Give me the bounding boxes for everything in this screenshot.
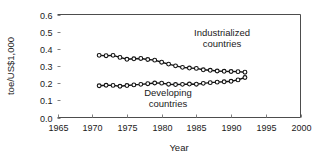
data-point-marker: [167, 62, 171, 66]
data-point-marker: [111, 84, 115, 88]
x-tick-label: 1995: [256, 123, 276, 133]
data-point-marker: [167, 82, 171, 86]
x-tick-label: 2000: [291, 123, 311, 133]
data-point-marker: [118, 56, 122, 60]
data-point-marker: [132, 83, 136, 87]
x-tick-label: 1980: [152, 123, 172, 133]
y-tick-label: 0.4: [40, 45, 53, 55]
data-point-marker: [236, 70, 240, 74]
chart-container: 0.00.10.20.30.40.50.6 196519701975198019…: [0, 0, 322, 157]
line-chart: 0.00.10.20.30.40.50.6 196519701975198019…: [0, 0, 322, 157]
annotation-developing-line1: Developing: [144, 87, 192, 98]
data-point-marker: [181, 65, 185, 69]
data-point-marker: [194, 82, 198, 86]
data-point-marker: [153, 81, 157, 85]
data-point-marker: [104, 54, 108, 58]
data-point-marker: [125, 57, 129, 61]
data-point-marker: [111, 53, 115, 57]
x-tick-label: 1975: [117, 123, 137, 133]
data-point-marker: [146, 58, 150, 62]
data-point-marker: [215, 69, 219, 73]
data-point-marker: [194, 67, 198, 71]
x-tick-label: 1990: [221, 123, 241, 133]
data-point-marker: [174, 64, 178, 68]
data-point-marker: [97, 84, 101, 88]
data-point-marker: [139, 82, 143, 86]
data-point-marker: [215, 80, 219, 84]
data-point-marker: [243, 70, 247, 74]
y-tick-label: 0.3: [40, 62, 53, 72]
data-point-marker: [160, 60, 164, 64]
x-tick-label: 1965: [48, 123, 68, 133]
annotation-industrialized-line1: Industrialized: [194, 27, 250, 38]
data-point-marker: [236, 78, 240, 82]
data-point-marker: [125, 84, 129, 88]
data-point-marker: [243, 76, 247, 80]
data-point-marker: [222, 69, 226, 73]
y-tick-label: 0.6: [40, 11, 53, 21]
data-point-marker: [160, 81, 164, 85]
x-axis-title: Year: [169, 142, 188, 153]
data-point-marker: [201, 68, 205, 72]
annotation-developing-line2: countries: [149, 98, 188, 109]
data-point-marker: [104, 83, 108, 87]
data-point-marker: [181, 82, 185, 86]
data-point-marker: [146, 82, 150, 86]
data-point-marker: [118, 84, 122, 88]
data-point-marker: [229, 70, 233, 74]
data-point-marker: [208, 81, 212, 85]
data-point-marker: [208, 68, 212, 72]
data-point-marker: [222, 80, 226, 84]
data-point-marker: [229, 79, 233, 83]
data-point-marker: [139, 57, 143, 61]
data-point-marker: [132, 57, 136, 61]
annotation-developing: Developing countries: [144, 87, 192, 109]
data-point-marker: [201, 81, 205, 85]
y-axis-title: toe/US$1,000: [5, 37, 16, 95]
y-tick-label: 0.2: [40, 79, 53, 89]
data-point-marker: [188, 82, 192, 86]
data-point-marker: [174, 83, 178, 87]
y-tick-label: 0.5: [40, 28, 53, 38]
x-tick-label: 1985: [186, 123, 206, 133]
y-tick-label: 0.1: [40, 96, 53, 106]
data-point-marker: [153, 58, 157, 62]
annotation-industrialized-line2: countries: [203, 38, 242, 49]
data-point-marker: [97, 53, 101, 57]
data-point-marker: [188, 66, 192, 70]
x-tick-label: 1970: [82, 123, 102, 133]
